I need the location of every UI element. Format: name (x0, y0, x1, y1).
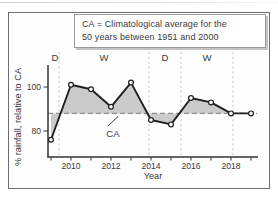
data-point (209, 100, 214, 105)
x-axis-ticks: 20102012201420162018 (51, 157, 251, 171)
data-point (169, 122, 174, 127)
period-label: W (99, 52, 109, 63)
x-tick-label: 2012 (101, 161, 120, 171)
x-axis-title: Year (144, 171, 163, 181)
data-point (129, 80, 134, 85)
period-label: D (52, 52, 59, 63)
y-tick-label: 100 (27, 82, 42, 92)
x-tick-label: 2014 (141, 161, 160, 171)
legend-note-line1: CA = Climatological average for the (82, 18, 259, 31)
ca-annotation-leader-line (108, 117, 118, 127)
x-tick-label: 2018 (221, 161, 240, 171)
period-label: D (162, 52, 169, 63)
data-point (109, 104, 114, 109)
legend-note-box: CA = Climatological average for the 50 y… (74, 14, 266, 48)
period-label: W (202, 52, 212, 63)
shaded-area-curve-vs-ca (51, 83, 251, 140)
x-tick-label: 2016 (181, 161, 200, 171)
data-point (229, 111, 234, 116)
data-point (69, 82, 74, 87)
y-axis-ticks: 10080 (27, 82, 48, 136)
period-labels: DWDW (52, 52, 213, 63)
data-point (149, 118, 154, 123)
data-point (189, 96, 194, 101)
x-tick-label: 2010 (61, 161, 80, 171)
legend-note-line2: 50 years between 1951 and 2000 (82, 31, 259, 44)
data-point (49, 137, 54, 142)
data-point (249, 111, 254, 116)
data-point (89, 87, 94, 92)
ca-annotation-label: CA (106, 128, 120, 139)
y-axis-title: % rainfall, relative to CA (13, 67, 23, 166)
y-tick-label: 80 (31, 126, 41, 136)
